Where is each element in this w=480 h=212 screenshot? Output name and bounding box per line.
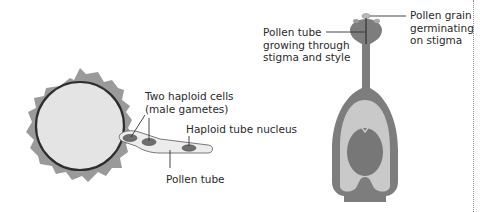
dotted-page-border [473,0,474,212]
label-tube-growing-line2: growing through [263,39,350,52]
male-gamete-1 [123,134,137,141]
label-pollen-grain-line3: on stigma [410,34,474,47]
label-tube-nucleus: Haploid tube nucleus [186,123,297,136]
label-pollen-grain: Pollen grain germinating on stigma [410,9,474,47]
label-tube-growing-line3: stigma and style [263,51,350,64]
label-male-gametes: Two haploid cells (male gametes) [145,90,234,115]
diagram-stage: Two haploid cells (male gametes) Haploid… [0,0,480,212]
pollen-grain-body [36,82,124,170]
label-male-gametes-line1: Two haploid cells [145,90,234,103]
pollen-grain [26,68,134,182]
stigma-bump-left [353,19,359,23]
label-pollen-tube: Pollen tube [166,173,225,186]
diagram-graphics [0,0,480,212]
label-tube-growing-line1: Pollen tube [263,26,350,39]
pollen-grain-on-stigma [362,13,370,18]
label-male-gametes-line2: (male gametes) [145,103,234,116]
label-pollen-grain-line2: germinating [410,22,474,35]
label-tube-growing: Pollen tube growing through stigma and s… [263,26,350,64]
label-pollen-grain-line1: Pollen grain [410,9,474,22]
ovule [347,128,383,176]
stigma-bump-right [374,19,380,23]
